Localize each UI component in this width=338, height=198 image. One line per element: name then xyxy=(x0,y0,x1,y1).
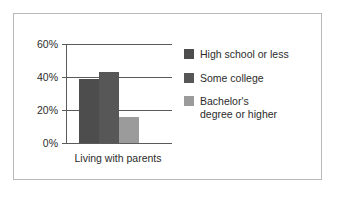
y-axis-tick-labels: 60% 40% 20% 0% xyxy=(14,0,58,160)
y-tick-label-60: 60% xyxy=(16,39,58,50)
x-axis-label: Living with parents xyxy=(48,152,188,164)
y-tick-label-20: 20% xyxy=(16,105,58,116)
legend-item-some-college: Some college xyxy=(184,72,324,85)
y-tick-mark-0 xyxy=(62,143,66,144)
y-tick-label-40: 40% xyxy=(16,72,58,83)
y-tick-mark-40 xyxy=(62,77,66,78)
legend-label: High school or less xyxy=(200,48,324,61)
legend-swatch-icon xyxy=(184,73,194,83)
y-tick-label-0: 0% xyxy=(16,138,58,149)
y-axis-line xyxy=(66,44,67,144)
chart-legend: High school or less Some college Bachelo… xyxy=(184,48,324,131)
bar-bachelors-degree-or-higher xyxy=(119,117,139,143)
gridline-60 xyxy=(66,44,172,45)
legend-swatch-icon xyxy=(184,96,194,106)
legend-swatch-icon xyxy=(184,49,194,59)
y-tick-mark-20 xyxy=(62,110,66,111)
legend-label: Some college xyxy=(200,72,324,85)
plot-area xyxy=(66,44,172,143)
chart-figure: 60% 40% 20% 0% Living with parents High … xyxy=(0,0,338,198)
legend-item-high-school-or-less: High school or less xyxy=(184,48,324,61)
legend-label-line2: degree or higher xyxy=(200,108,324,121)
legend-item-bachelors-degree-or-higher: Bachelor's degree or higher xyxy=(184,95,324,120)
legend-label-line1: Bachelor's xyxy=(200,95,324,108)
bar-high-school-or-less xyxy=(79,79,99,143)
gridline-40 xyxy=(66,77,172,78)
y-tick-mark-60 xyxy=(62,44,66,45)
x-axis-line xyxy=(66,143,172,144)
bar-some-college xyxy=(99,72,119,143)
